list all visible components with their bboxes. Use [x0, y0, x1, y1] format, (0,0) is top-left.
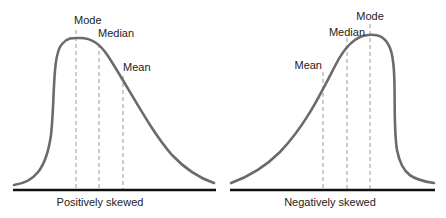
negative-skew-curve [231, 35, 434, 183]
mode-label: Mode [74, 14, 102, 26]
mean-label: Mean [294, 59, 322, 71]
caption-negatively-skewed: Negatively skewed [284, 196, 376, 208]
median-label: Median [329, 26, 365, 38]
skewness-diagram: Mode Median Mean Positively skewed Mode … [0, 0, 446, 218]
mode-label: Mode [356, 10, 384, 22]
caption-positively-skewed: Positively skewed [57, 196, 144, 208]
mean-label: Mean [123, 61, 151, 73]
panel-positively-skewed: Mode Median Mean Positively skewed [13, 14, 216, 208]
median-label: Median [98, 27, 134, 39]
panel-negatively-skewed: Mode Median Mean Negatively skewed [230, 10, 435, 208]
positive-skew-curve [14, 38, 214, 185]
